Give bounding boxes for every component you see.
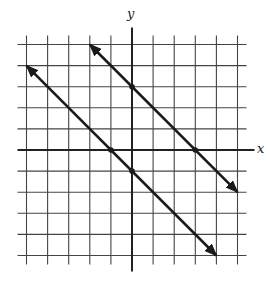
line-upper	[90, 45, 238, 193]
marked-point	[129, 168, 135, 174]
marked-point	[193, 147, 199, 153]
marked-point	[108, 147, 114, 153]
y-axis-label: y	[127, 6, 134, 21]
x-axis-label: x	[257, 141, 264, 156]
coordinate-grid-plot	[0, 0, 268, 281]
marked-point	[129, 84, 135, 90]
line-lower	[27, 66, 217, 256]
